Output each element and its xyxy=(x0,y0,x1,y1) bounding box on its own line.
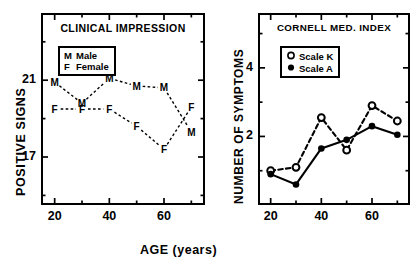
xtick-label-right-40: 40 xyxy=(301,209,341,223)
svg-text:F: F xyxy=(161,144,167,155)
plot-area-right xyxy=(258,13,410,205)
svg-text:M: M xyxy=(132,81,140,92)
plot-area-left: MMMMMMFFFFFF xyxy=(41,13,205,205)
svg-text:F: F xyxy=(188,102,194,113)
yaxis-label-left: POSITIVE SIGNS xyxy=(14,88,28,196)
ytick-label-left-21: 21 xyxy=(15,72,36,86)
svg-text:M: M xyxy=(187,127,195,138)
chart-cornell-med-index: CORNELL MED. INDEX Scale K Scale A xyxy=(258,13,410,205)
svg-text:F: F xyxy=(52,104,58,115)
xtick-label-left-40: 40 xyxy=(89,209,129,223)
svg-text:M: M xyxy=(160,82,168,93)
xtick-label-left-60: 60 xyxy=(144,209,184,223)
svg-text:F: F xyxy=(106,104,112,115)
xtick-label-right-20: 20 xyxy=(251,209,291,223)
svg-text:M: M xyxy=(105,73,113,84)
chart-clinical-impression: CLINICAL IMPRESSION M Male F Female MMMM… xyxy=(41,13,205,205)
figure-container: CLINICAL IMPRESSION M Male F Female MMMM… xyxy=(0,0,419,266)
svg-text:F: F xyxy=(134,121,140,132)
xtick-label-left-20: 20 xyxy=(35,209,75,223)
xtick-label-right-60: 60 xyxy=(352,209,392,223)
svg-text:M: M xyxy=(50,77,58,88)
yaxis-label-right: NUMBER OF SYMPTOMS xyxy=(232,49,246,204)
xaxis-title: AGE (years) xyxy=(140,243,217,257)
svg-text:F: F xyxy=(79,104,85,115)
